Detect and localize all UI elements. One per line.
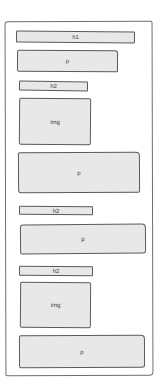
paragraph-label-4: p [80, 348, 83, 354]
paragraph-block-2: p [18, 152, 140, 194]
h2-block-2: h2 [19, 206, 93, 216]
image-block-2: img [20, 282, 91, 328]
h2-block-1: h2 [19, 81, 88, 92]
paragraph-label-3: p [81, 236, 84, 242]
paragraph-block-1: p [17, 50, 118, 73]
h2-label-1: h2 [50, 83, 57, 89]
image-block-1: img [19, 98, 91, 146]
paragraph-block-3: p [20, 223, 146, 254]
h1-label: h1 [72, 34, 79, 40]
paragraph-block-4: p [19, 335, 145, 369]
paragraph-label-1: p [66, 58, 69, 64]
image-label-2: img [51, 302, 61, 308]
h2-label-2: h2 [53, 207, 60, 213]
h2-block-3: h2 [19, 266, 93, 277]
h2-label-3: h2 [53, 268, 60, 274]
paragraph-label-2: p [77, 169, 80, 175]
h1-block: h1 [16, 30, 135, 43]
image-label-1: img [50, 118, 60, 124]
